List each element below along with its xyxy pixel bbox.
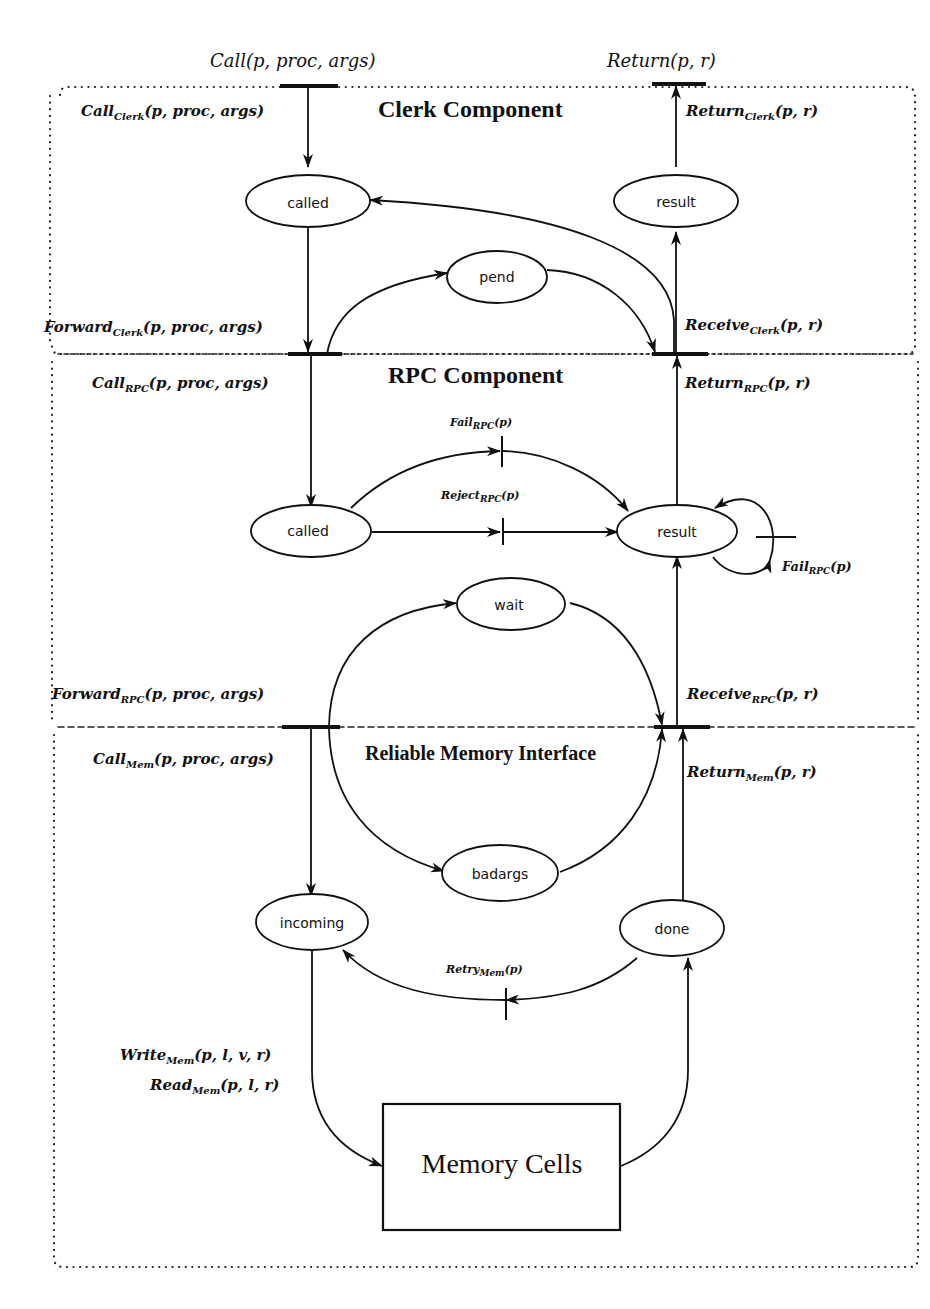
return-mem-label: ReturnMem(p, r)	[687, 765, 817, 780]
retry-mem-label: RetryMem(p)	[446, 964, 523, 975]
fail-rpc-top-label: FailRPC(p)	[450, 417, 512, 428]
fail-rpc-loop-label: FailRPC(p)	[782, 560, 852, 573]
rpc-component-title: RPC Component	[388, 362, 563, 389]
return-rpc-label: ReturnRPC(p, r)	[685, 376, 810, 391]
call-rpc-label: CallRPC(p, proc, args)	[92, 376, 269, 391]
clerk-border	[52, 87, 915, 354]
forward-rpc-label: ForwardRPC(p, proc, args)	[52, 687, 264, 702]
place-label-clerk-called: called	[287, 196, 329, 210]
return-external-label: Return(p, r)	[607, 52, 716, 70]
clerk-component-title: Clerk Component	[378, 96, 563, 123]
petri-net-diagram	[0, 0, 930, 1309]
reject-rpc-label: RejectRPC(p)	[441, 490, 519, 501]
call-clerk-label: CallClerk(p, proc, args)	[81, 104, 264, 119]
place-label-clerk-result: result	[656, 195, 696, 209]
place-label-rpc-result: result	[657, 525, 697, 539]
memory-cells-label: Memory Cells	[422, 1148, 583, 1180]
forward-clerk-label: ForwardClerk(p, proc, args)	[44, 320, 263, 335]
place-label-rpc-called: called	[287, 524, 329, 538]
place-label-mem-badargs: badargs	[472, 867, 529, 881]
places	[246, 175, 738, 1230]
place-label-rpc-wait: wait	[494, 598, 523, 612]
return-clerk-label: ReturnClerk(p, r)	[686, 104, 818, 119]
call-external-label: Call(p, proc, args)	[210, 52, 376, 70]
place-label-mem-done: done	[655, 922, 690, 936]
call-mem-label: CallMem(p, proc, args)	[93, 752, 274, 767]
mem-component-title: Reliable Memory Interface	[365, 742, 596, 765]
read-mem-label: ReadMem(p, l, r)	[150, 1078, 279, 1093]
rpc-border-sides	[52, 362, 918, 720]
place-label-clerk-pend: pend	[479, 270, 514, 284]
place-label-mem-incoming: incoming	[280, 916, 344, 930]
receive-rpc-label: ReceiveRPC(p, r)	[687, 687, 818, 702]
write-mem-label: WriteMem(p, l, v, r)	[120, 1048, 271, 1063]
receive-clerk-label: ReceiveClerk(p, r)	[685, 318, 823, 333]
